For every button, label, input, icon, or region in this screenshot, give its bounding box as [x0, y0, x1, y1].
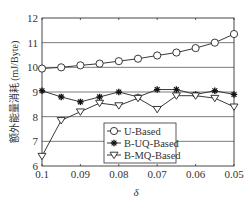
x-tick-label: 0.06: [186, 168, 206, 180]
y-tick-label: 8: [33, 111, 39, 123]
y-tick-label: 7: [33, 135, 39, 147]
x-tick-label: 0.05: [224, 168, 244, 180]
legend-label: B-MQ-Based: [124, 150, 181, 161]
series-u-based: [38, 30, 237, 72]
y-axis-label: 额外能量消耗 (mJ/Byte): [8, 41, 21, 144]
legend-label: U-Based: [124, 126, 161, 137]
y-tick-label: 9: [33, 86, 39, 98]
x-tick-label: 0.1: [35, 168, 49, 180]
x-tick-label: 0.08: [109, 168, 129, 180]
line-chart: 6789101112 0.10.090.080.070.060.05 δ 额外能…: [0, 0, 250, 205]
legend: U-BasedB-UQ-BasedB-MQ-Based: [104, 123, 181, 163]
x-axis-label: δ: [133, 186, 139, 198]
y-tick-label: 12: [27, 12, 38, 24]
y-tick-label: 11: [27, 37, 38, 49]
y-axis-ticks: 6789101112: [27, 12, 39, 172]
x-tick-label: 0.09: [71, 168, 91, 180]
y-tick-label: 10: [27, 61, 39, 73]
x-tick-label: 0.07: [148, 168, 168, 180]
legend-label: B-UQ-Based: [124, 138, 180, 149]
